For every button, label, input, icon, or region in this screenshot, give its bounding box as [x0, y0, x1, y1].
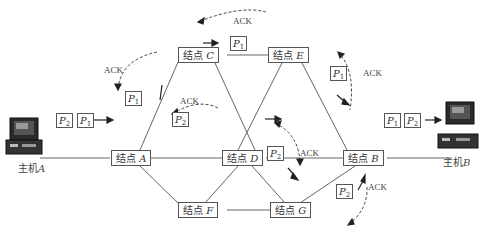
node-d: 结点 D — [222, 150, 263, 166]
node-e: 结点 E — [268, 47, 309, 63]
ack-label-a-c: ACK — [104, 65, 123, 75]
packet-p1-c-e: P1 — [230, 36, 247, 51]
host-b-label: 主机B — [443, 154, 470, 169]
packet-p1-a-c: P1 — [125, 91, 142, 106]
ack-label-a-d: ACK — [180, 96, 199, 106]
packet-p1-e-b: P1 — [330, 66, 347, 81]
node-a: 结点 A — [111, 150, 151, 166]
packet-p2-host-a: P2 — [56, 113, 73, 128]
node-b: 结点 B — [343, 150, 384, 166]
node-c: 结点 C — [178, 47, 219, 63]
packet-p1-host-a: P1 — [77, 113, 94, 128]
packet-p2-g-b: P2 — [336, 184, 353, 199]
host-b-computer-icon — [438, 102, 478, 148]
node-g: 结点 G — [270, 202, 311, 218]
packet-p2-d-g: P2 — [267, 146, 284, 161]
host-a-label: 主机A — [18, 160, 45, 175]
ack-label-e-b: ACK — [363, 68, 382, 78]
packet-p2-a-d: P2 — [172, 112, 189, 127]
packet-p2-host-b: P2 — [404, 113, 421, 128]
ack-label-g-b: ACK — [368, 182, 387, 192]
host-a-computer-icon — [6, 118, 42, 154]
ack-label-d-g: ACK — [300, 148, 319, 158]
ack-label-c-e: ACK — [233, 16, 252, 26]
packet-p1-host-b: P1 — [384, 113, 401, 128]
node-f: 结点 F — [178, 202, 218, 218]
